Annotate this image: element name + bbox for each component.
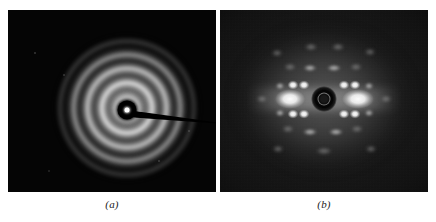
vignette-overlay <box>220 10 428 192</box>
beam-stop-center-dot <box>125 108 130 113</box>
film-speck <box>158 160 160 162</box>
film-speck <box>48 170 50 172</box>
film-speck <box>34 52 36 54</box>
panel-b-caption: (b) <box>220 198 428 210</box>
diffraction-figure: (a) <box>0 0 436 222</box>
film-speck <box>63 74 65 76</box>
panel-a-caption: (a) <box>8 198 216 210</box>
panel-b-image <box>220 10 428 192</box>
panel-b-wrapper <box>220 10 428 192</box>
panel-a-wrapper <box>8 10 216 192</box>
film-speck <box>188 130 190 132</box>
panel-a-image <box>8 10 216 192</box>
